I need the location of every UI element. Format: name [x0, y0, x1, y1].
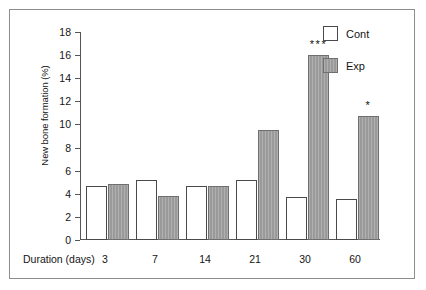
bar-cont[interactable]: [86, 186, 107, 240]
bar-cont[interactable]: [236, 180, 257, 240]
legend-label-cont: Cont: [346, 28, 369, 40]
y-axis-tick-label: 0: [65, 234, 71, 246]
significance-marker: *: [366, 100, 372, 111]
bar-exp[interactable]: [158, 196, 179, 240]
legend-item-cont: Cont: [323, 26, 401, 41]
chart-legend: Cont Exp: [323, 26, 401, 90]
bar-cont[interactable]: [136, 180, 157, 240]
legend-swatch-exp: [323, 58, 338, 73]
bar-cont[interactable]: [336, 199, 357, 240]
bar-exp[interactable]: [358, 116, 379, 240]
y-axis-tick-label: 4: [65, 188, 71, 200]
y-axis-tick-label: 12: [59, 95, 71, 107]
legend-item-exp: Exp: [323, 58, 401, 73]
legend-label-exp: Exp: [346, 60, 365, 72]
bar-cont[interactable]: [186, 186, 207, 240]
x-axis-title: Duration (days): [23, 253, 95, 265]
x-axis-tick-label: 7: [152, 253, 158, 265]
bar-exp[interactable]: [208, 186, 229, 240]
y-axis-tick: 0: [75, 240, 80, 241]
bar-cont[interactable]: [286, 197, 307, 240]
y-axis-tick-label: 2: [65, 211, 71, 223]
bar-exp[interactable]: [258, 130, 279, 240]
y-axis-tick-label: 10: [59, 118, 71, 130]
x-axis-tick-label: 30: [299, 253, 311, 265]
bar-group: [234, 32, 284, 240]
y-axis-tick-label: 14: [59, 72, 71, 84]
y-axis-tick-label: 16: [59, 49, 71, 61]
bar-group: [134, 32, 184, 240]
legend-swatch-cont: [323, 26, 338, 41]
bar-exp[interactable]: [108, 184, 129, 240]
y-axis-tick-label: 6: [65, 165, 71, 177]
x-axis-tick-label: 60: [349, 253, 361, 265]
y-axis-tick-label: 18: [59, 26, 71, 38]
y-axis-tick-label: 8: [65, 142, 71, 154]
bar-group: [84, 32, 134, 240]
y-axis-title: New bone formation (%): [39, 31, 50, 201]
chart-figure-frame: New bone formation (%) 024681012141618 *…: [9, 9, 415, 279]
x-axis-tick-label: 3: [102, 253, 108, 265]
x-axis-tick-label: 21: [249, 253, 261, 265]
bar-group: [184, 32, 234, 240]
x-axis-tick-label: 14: [199, 253, 211, 265]
